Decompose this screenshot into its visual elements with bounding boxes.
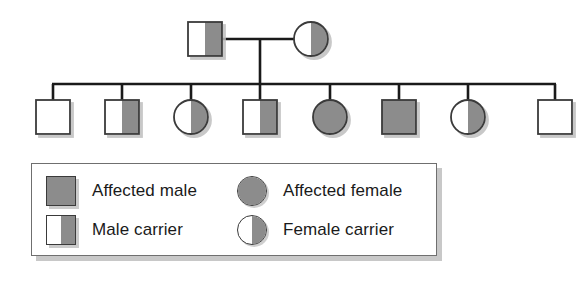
male-carrier-icon — [46, 215, 76, 245]
legend-label-affected-male: Affected male — [92, 181, 197, 201]
child-7-carrier-half-fill — [468, 100, 485, 134]
child-1-symbol-square — [36, 100, 70, 134]
affected-female-icon — [237, 176, 267, 206]
child-4-carrier-half-fill — [260, 100, 277, 134]
legend-label-affected-female: Affected female — [283, 181, 402, 201]
legend-item-affected-female: Affected female — [237, 172, 402, 210]
child-6-symbol-square — [382, 100, 416, 134]
child-8-symbol-square — [538, 100, 572, 134]
father-carrier-half-fill — [205, 22, 222, 56]
legend-label-female-carrier: Female carrier — [283, 220, 394, 240]
generation-ii-children — [36, 100, 572, 134]
person-child-3[interactable] — [174, 100, 208, 134]
pedigree-chart: Affected male Affected female Male carri… — [0, 0, 588, 281]
legend-item-female-carrier: Female carrier — [237, 211, 394, 249]
person-child-5[interactable] — [313, 100, 347, 134]
person-child-4[interactable] — [243, 100, 277, 134]
child-3-carrier-half-fill — [191, 100, 208, 134]
person-child-1[interactable] — [36, 100, 70, 134]
person-father[interactable] — [188, 22, 222, 56]
legend-item-affected-male: Affected male — [46, 172, 197, 210]
person-child-6[interactable] — [382, 100, 416, 134]
legend-label-male-carrier: Male carrier — [92, 220, 183, 240]
child-2-carrier-half-fill — [122, 100, 139, 134]
person-child-7[interactable] — [451, 100, 485, 134]
person-mother[interactable] — [294, 22, 328, 56]
legend: Affected male Affected female Male carri… — [31, 163, 437, 256]
female-carrier-icon — [237, 215, 267, 245]
mother-carrier-half-fill — [311, 22, 328, 56]
legend-item-male-carrier: Male carrier — [46, 211, 183, 249]
affected-male-icon — [46, 176, 76, 206]
person-child-2[interactable] — [105, 100, 139, 134]
person-child-8[interactable] — [538, 100, 572, 134]
